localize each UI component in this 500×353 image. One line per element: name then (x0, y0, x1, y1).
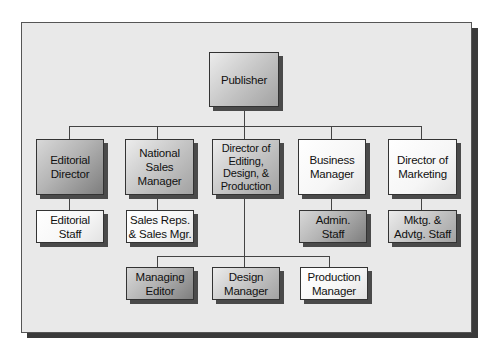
connector-business-manager (331, 126, 332, 139)
connector-director-editing (244, 126, 245, 139)
node-label: Admin. Staff (316, 213, 351, 241)
node-label: Editorial Staff (50, 213, 90, 241)
node-label: Director of Editing, Design, & Productio… (221, 142, 272, 192)
node-label: Design Manager (224, 270, 268, 298)
node-label: Sales Reps. & Sales Mgr. (129, 213, 192, 241)
connector-production-manager (329, 256, 330, 267)
node-editorial-director: Editorial Director (36, 139, 104, 195)
node-production-manager: Production Manager (300, 267, 368, 300)
node-director-editing-design-production: Director of Editing, Design, & Productio… (212, 139, 280, 195)
node-design-manager: Design Manager (212, 267, 280, 300)
node-mktg-advtg-staff: Mktg. & Advtg. Staff (388, 210, 457, 243)
node-label: Director of Marketing (397, 153, 448, 181)
node-sales-reps: Sales Reps. & Sales Mgr. (126, 210, 194, 243)
node-label: Managing Editor (136, 270, 185, 298)
connector-level2-horizontal (69, 126, 421, 127)
node-label: Editorial Director (50, 153, 90, 181)
connector-director-marketing (421, 126, 422, 139)
node-business-manager: Business Manager (298, 139, 366, 195)
node-label: Business Manager (309, 153, 354, 181)
node-label: National Sales Manager (126, 146, 193, 188)
node-national-sales-manager: National Sales Manager (125, 139, 194, 195)
node-label: Production Manager (308, 270, 361, 298)
node-publisher: Publisher (209, 52, 279, 107)
connector-level4-horizontal (157, 256, 329, 257)
connector-managing-editor (157, 256, 158, 267)
connector-editorial-director (69, 126, 70, 139)
node-label: Mktg. & Advtg. Staff (394, 213, 451, 241)
node-admin-staff: Admin. Staff (299, 210, 367, 243)
node-managing-editor: Managing Editor (126, 267, 194, 300)
node-editorial-staff: Editorial Staff (36, 210, 104, 243)
connector-national-sales (157, 126, 158, 139)
node-director-of-marketing: Director of Marketing (388, 139, 457, 195)
node-label: Publisher (221, 73, 267, 87)
